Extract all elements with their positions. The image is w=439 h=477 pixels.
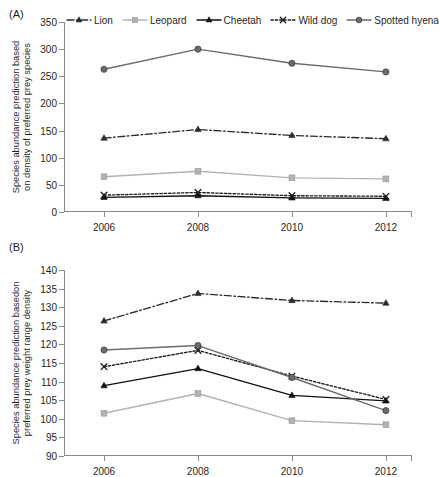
y-tick-label: 135 <box>40 283 57 294</box>
y-tick-label: 50 <box>46 179 57 190</box>
chart-panel-a: (A) Species abundance prediction based o… <box>0 0 423 238</box>
series-layer <box>64 270 412 456</box>
x-tick <box>386 212 387 217</box>
y-tick <box>59 212 64 213</box>
series-lion <box>101 126 389 141</box>
x-tick-label: 2010 <box>281 222 303 233</box>
y-tick-label: 95 <box>46 432 57 443</box>
y-tick-label: 350 <box>40 17 57 28</box>
panel-a-plot-area: 0501001502002503003502006200820102012 <box>64 22 412 212</box>
series-spotted-hyena <box>101 46 389 75</box>
x-axis-end-tick <box>411 212 412 217</box>
x-tick-label: 2006 <box>93 222 115 233</box>
y-tick-label: 90 <box>46 451 57 462</box>
y-tick-label: 250 <box>40 71 57 82</box>
y-tick <box>59 456 64 457</box>
y-tick-label: 100 <box>40 413 57 424</box>
series-cheetah <box>101 365 389 403</box>
panel-b-y-axis-label-line1: Species abundance prediction basedon <box>11 282 21 445</box>
y-tick-label: 110 <box>41 376 57 387</box>
x-tick <box>104 212 105 217</box>
y-tick-label: 140 <box>40 265 57 276</box>
panel-b-tag: (B) <box>9 241 24 253</box>
x-axis-end-tick <box>411 456 412 461</box>
y-tick-label: 120 <box>40 339 57 350</box>
y-tick-label: 115 <box>41 358 57 369</box>
panel-a-y-axis-label-line1: Species abundance prediction based <box>11 41 21 193</box>
y-tick-label: 130 <box>40 302 57 313</box>
y-tick-label: 200 <box>40 98 57 109</box>
x-tick <box>292 456 293 461</box>
x-tick <box>198 456 199 461</box>
x-tick-label: 2012 <box>375 222 397 233</box>
panel-b-plot-area: 9095100105110115120125130135140200620082… <box>64 270 412 456</box>
x-tick-label: 2008 <box>187 466 209 477</box>
panel-a-y-axis-label: Species abundance prediction based on de… <box>11 22 33 212</box>
x-tick-label: 2010 <box>281 466 303 477</box>
x-tick-label: 2012 <box>375 466 397 477</box>
x-tick <box>104 456 105 461</box>
series-lion <box>101 290 389 323</box>
panel-a-tag: (A) <box>9 8 24 20</box>
x-tick <box>198 212 199 217</box>
x-tick-label: 2006 <box>93 466 115 477</box>
y-tick-label: 125 <box>40 320 57 331</box>
series-layer <box>64 22 412 212</box>
chart-panel-b: (B) Species abundance prediction basedon… <box>0 238 423 477</box>
panel-b-y-axis-label-line2: preferred prey weight range density <box>22 270 33 456</box>
x-tick <box>292 212 293 217</box>
panel-b-y-axis-label: Species abundance prediction basedon pre… <box>11 270 33 456</box>
y-tick-label: 105 <box>40 395 57 406</box>
y-tick-label: 0 <box>51 207 57 218</box>
y-tick-label: 150 <box>40 125 57 136</box>
series-wild-dog <box>101 347 389 402</box>
x-tick-label: 2008 <box>187 222 209 233</box>
y-tick-label: 300 <box>40 44 57 55</box>
x-tick <box>386 456 387 461</box>
panel-a-y-axis-label-line2: on density of preferred prey species <box>22 22 33 212</box>
y-tick-label: 100 <box>40 152 57 163</box>
series-leopard <box>101 168 389 181</box>
